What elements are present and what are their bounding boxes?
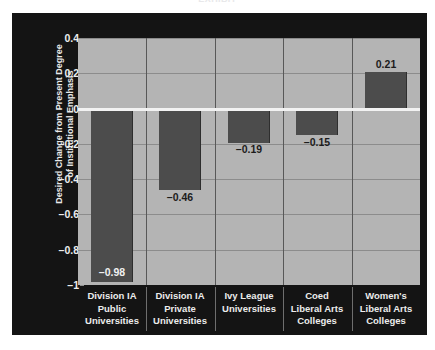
- bar-value-label: –0.19: [228, 143, 270, 155]
- category-separator: [146, 38, 147, 285]
- x-axis-category-label-line: Women's: [352, 290, 420, 303]
- bar: [228, 109, 270, 143]
- y-axis-tick-label: –0.2: [48, 139, 79, 150]
- bar-value-label: 0.21: [365, 58, 407, 70]
- zero-baseline: [78, 108, 420, 111]
- y-axis-tick-labels: 0.40.20–0.2–0.4–0.6–0.8–1: [48, 38, 79, 308]
- chart-figure: EXHIBIT Desired Change from Present Degr…: [0, 0, 435, 350]
- x-axis-category-label: CoedLiberal ArtsColleges: [283, 286, 351, 334]
- x-axis-category-label-line: Colleges: [283, 315, 351, 328]
- bar: [296, 109, 338, 135]
- x-axis-category-label-line: Coed: [283, 290, 351, 303]
- y-axis-tick-label: 0.2: [48, 68, 79, 79]
- x-axis-label-divider: [283, 287, 284, 331]
- bar-value-label: –0.46: [159, 191, 201, 203]
- x-axis-category-label: Division IAPrivateUniversities: [146, 286, 214, 334]
- x-axis-category-label-line: Liberal Arts: [283, 303, 351, 316]
- bar: [365, 72, 407, 109]
- x-axis-category-label-line: Division IA: [78, 290, 146, 303]
- category-separator: [215, 38, 216, 285]
- bar: [91, 109, 133, 282]
- x-axis-category-label-line: Liberal Arts: [352, 303, 420, 316]
- x-axis-category-label-line: Universities: [146, 315, 214, 328]
- x-axis-category-label-line: Universities: [215, 303, 283, 316]
- y-axis-tick-label: –0.6: [48, 209, 79, 220]
- x-axis-label-divider: [146, 287, 147, 331]
- gridline-horizontal: [78, 38, 420, 39]
- x-axis-tick-labels: Division IAPublicUniversitiesDivision IA…: [78, 286, 420, 334]
- x-axis-category-label-line: Public: [78, 303, 146, 316]
- y-axis-tick-label: –0.8: [48, 245, 79, 256]
- chart-panel: Desired Change from Present Degree of In…: [12, 13, 427, 335]
- plot-area: –0.98–0.46–0.19–0.150.21: [78, 38, 420, 285]
- x-axis-category-label-line: Ivy League: [215, 290, 283, 303]
- y-axis-tick-label: –0.4: [48, 174, 79, 185]
- x-axis-category-label: Ivy LeagueUniversities: [215, 286, 283, 334]
- y-axis-tick-label: 0.4: [48, 33, 79, 44]
- category-separator: [283, 38, 284, 285]
- bar-value-label: –0.15: [296, 136, 338, 148]
- x-axis-category-label-line: Universities: [78, 315, 146, 328]
- x-axis-category-label-line: Private: [146, 303, 214, 316]
- x-axis-category-label: Division IAPublicUniversities: [78, 286, 146, 334]
- x-axis-label-divider: [215, 287, 216, 331]
- bar: [159, 109, 201, 190]
- x-axis-category-label-line: Colleges: [352, 315, 420, 328]
- x-axis-category-label-line: Division IA: [146, 290, 214, 303]
- bar-value-label: –0.98: [91, 266, 133, 278]
- x-axis-category-label: Women'sLiberal ArtsColleges: [352, 286, 420, 334]
- y-axis-tick-label: 0: [48, 104, 79, 115]
- x-axis-label-divider: [352, 287, 353, 331]
- y-axis-tick-label: –1: [48, 280, 79, 291]
- category-separator: [352, 38, 353, 285]
